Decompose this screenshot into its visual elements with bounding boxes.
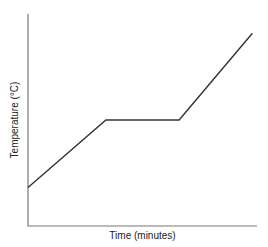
y-axis-label: Temperature (°C) bbox=[9, 82, 20, 159]
temperature-line bbox=[28, 33, 252, 187]
x-axis-label: Time (minutes) bbox=[28, 230, 257, 241]
chart-canvas bbox=[0, 0, 268, 247]
